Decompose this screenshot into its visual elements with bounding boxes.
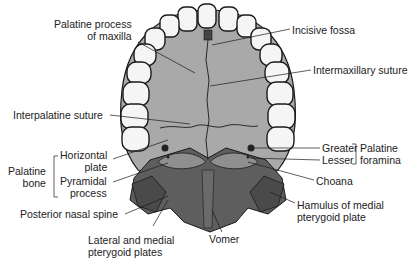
- label-intermaxillary-suture: Intermaxillary suture: [313, 64, 408, 76]
- label-lesser: Lesser: [322, 154, 354, 166]
- label-pyramidal-process: Pyramidal process: [60, 175, 107, 199]
- label-greater: Greater: [322, 142, 358, 154]
- label-palatine-process: Palatine process of maxilla: [54, 18, 132, 42]
- lesser-palatine-foramen-left: [167, 156, 170, 159]
- label-horizontal-plate: Horizontal plate: [60, 149, 107, 173]
- label-lateral-medial-pterygoid: Lateral and medial pterygoid plates: [88, 234, 174, 258]
- label-incisive-fossa: Incisive fossa: [292, 24, 355, 36]
- greater-palatine-foramen-left: [162, 145, 169, 152]
- vomer: [202, 170, 214, 228]
- lesser-palatine-foramen-right: [247, 156, 250, 159]
- greater-palatine-foramen-right: [248, 145, 255, 152]
- incisive-fossa-mark: [204, 30, 212, 40]
- label-palatine-foramina: Palatine foramina: [360, 142, 401, 166]
- label-hamulus: Hamulus of medial pterygoid plate: [297, 199, 384, 223]
- label-choana: Choana: [316, 175, 353, 187]
- label-posterior-nasal-spine: Posterior nasal spine: [20, 208, 118, 220]
- label-palatine-bone: Palatine bone: [8, 165, 46, 189]
- label-vomer: Vomer: [209, 233, 239, 245]
- label-interpalatine-suture: Interpalatine suture: [13, 109, 103, 121]
